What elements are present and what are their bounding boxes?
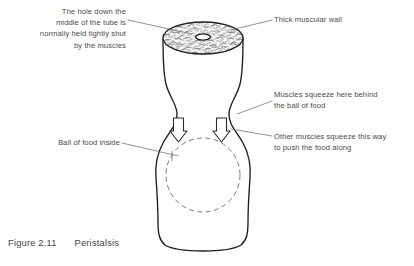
label-muscles-squeeze-behind: Muscles squeeze here behind the ball of … — [274, 89, 414, 111]
label-other-muscles-squeeze: Other muscles squeeze this way to push t… — [274, 131, 414, 153]
leader-squeeze-behind — [237, 101, 272, 114]
figure-title: Peristalsis — [75, 238, 120, 248]
label-hole: The hole down the middle of the tube is … — [6, 6, 126, 51]
leader-wall — [231, 20, 272, 30]
label-ball-of-food: Ball of food inside — [0, 137, 120, 148]
figure-caption: Figure 2.11Peristalsis — [8, 238, 119, 248]
tube-outline — [156, 38, 250, 251]
central-hole — [196, 34, 211, 40]
label-thick-muscular-wall: Thick muscular wall — [274, 14, 410, 25]
tube-cut-surface — [163, 22, 243, 54]
figure-number: Figure 2.11 — [8, 238, 57, 248]
